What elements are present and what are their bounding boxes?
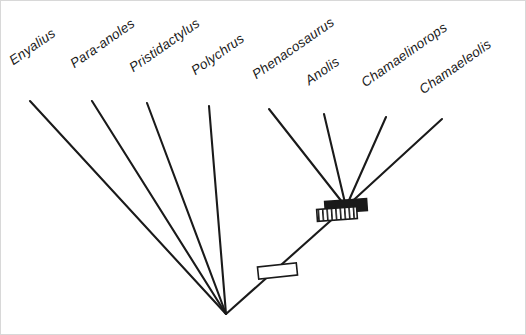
branch-chamaelinorops bbox=[346, 117, 386, 207]
branch-enyalius bbox=[30, 101, 226, 314]
character-mark-layer bbox=[257, 199, 367, 279]
branch-polychrus bbox=[209, 106, 226, 314]
branch-internode bbox=[226, 207, 346, 314]
branch-chamaeleolis bbox=[346, 119, 442, 207]
hatched-bar-mark bbox=[317, 207, 358, 222]
hatched-bar-mark-rect bbox=[317, 207, 358, 222]
open-bar-mark bbox=[257, 263, 297, 279]
open-bar-mark-rect bbox=[257, 263, 297, 279]
branch-layer bbox=[30, 101, 442, 314]
phylogenetic-tree-figure: EnyaliusPara-anolesPristidactylusPolychr… bbox=[0, 0, 526, 335]
